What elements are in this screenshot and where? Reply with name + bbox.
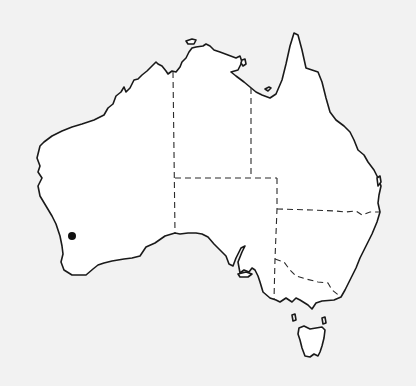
melville-island bbox=[186, 39, 196, 44]
australia-map bbox=[0, 0, 416, 386]
mornington-island bbox=[265, 87, 271, 91]
kangaroo-island bbox=[238, 272, 252, 277]
location-marker bbox=[68, 232, 76, 240]
mainland-australia bbox=[37, 33, 381, 309]
groote-eylandt bbox=[241, 59, 246, 66]
flinders-island bbox=[322, 317, 326, 324]
tasmania bbox=[298, 326, 325, 357]
king-island bbox=[292, 314, 296, 321]
